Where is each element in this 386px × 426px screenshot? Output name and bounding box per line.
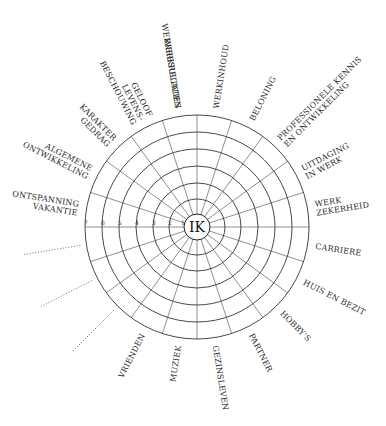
sector-label: CARRIERE [315,242,362,258]
sector-label: GEZINSLEVEN [211,345,230,411]
sector-label-line: VRIENDEN [116,332,147,380]
sector-label-line: EN ONTWIKKELING [282,80,351,149]
sector-label-line: WERKRELATIES [162,38,182,109]
scale-number: 5 [118,219,122,226]
sector-label-line: BELONING [248,75,278,123]
life-wheel-diagram: 7654321 WERKRESULTATENWERKINHOUDBELONING… [0,0,386,426]
scale-number: 4 [135,219,139,226]
sector-label-line: WERKINHOUD [212,44,231,110]
sector-label [24,245,80,254]
sector-label-line: MUZIEK [169,344,184,382]
blank-label-line [41,281,92,307]
scale-number: 3 [152,219,156,226]
sector-label-line: CARRIERE [315,242,362,258]
sector-label: WERKRELATIES [162,38,182,109]
sector-label-line: GEZINSLEVEN [211,345,230,411]
sector-label: VRIENDEN [116,332,147,380]
scale-number: 6 [101,219,105,226]
sector-label [41,281,92,307]
sector-label-line: HOBBY'S [278,309,312,343]
sector-label: WERKZEKERHEID [314,196,370,218]
sector-label-line: PROFESSIONELE KENNIS [276,55,364,143]
sector-label: ONTSPANNINGVAKANTIE [12,189,80,217]
sector-label: GELOOFLEVENS-BESCHOUWING [98,59,154,126]
blank-label-line [73,310,113,350]
sector-label [73,310,113,350]
center-label: IK [189,219,206,235]
sector-label: BELONING [248,75,278,123]
sector-label: HOBBY'S [278,309,312,343]
sector-label-line: HUIS EN BEZIT [302,278,368,317]
scale-number: 7 [84,219,88,226]
sector-label: WERKINHOUD [212,44,231,110]
sector-label: PARTNER [247,332,274,374]
sector-label: PROFESSIONELE KENNISEN ONTWIKKELING [276,55,364,149]
sector-label: KARAKTERGEDRAG [78,102,119,149]
sector-label: MUZIEK [169,344,184,382]
sector-label-line: PARTNER [247,332,274,374]
sector-label: UITDAGINGIN WERK [300,141,351,181]
scale-number: 2 [168,219,172,226]
scale-numbers: 7654321 [84,219,185,226]
sector-label: ALGEMENEONTWIKKELING [21,140,94,181]
blank-label-line [24,245,80,254]
sector-label: HUIS EN BEZIT [302,278,368,317]
